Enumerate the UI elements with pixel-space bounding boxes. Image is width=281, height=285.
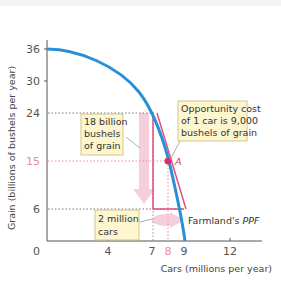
svg-text:of grain: of grain	[84, 140, 121, 151]
svg-text:18 billion: 18 billion	[84, 116, 128, 127]
x-tick-8: 8	[165, 245, 172, 258]
cropped-header	[0, 0, 281, 6]
svg-text:of 1 car is 9,000: of 1 car is 9,000	[181, 115, 258, 126]
note-opportunity-cost: Opportunity cost of 1 car is 9,000 bushe…	[178, 101, 261, 141]
ppf-chart: A 36 30 24 15 6 0 4 7 8 9 12 Grain (bill…	[0, 0, 281, 285]
y-tick-24: 24	[26, 107, 40, 120]
pink-down-arrow	[133, 113, 155, 204]
svg-text:Opportunity cost: Opportunity cost	[181, 103, 261, 114]
y-tick-15: 15	[26, 155, 40, 168]
note-grain: 18 billion bushels of grain	[81, 114, 128, 155]
y-axis-title: Grain (billions of bushels per year)	[6, 66, 17, 230]
y-tick-36: 36	[26, 43, 40, 56]
x-axis-title: Cars (millions per year)	[161, 263, 272, 274]
x-tick-9: 9	[181, 245, 188, 258]
note-cars: 2 million cars	[95, 210, 139, 240]
point-a-label: A	[174, 156, 182, 167]
note-grain-leader	[126, 137, 140, 148]
svg-text:2 million: 2 million	[98, 213, 139, 224]
origin-label: 0	[33, 245, 40, 258]
svg-text:cars: cars	[98, 226, 118, 237]
svg-text:bushels of grain: bushels of grain	[181, 127, 257, 138]
y-tick-6: 6	[33, 203, 40, 216]
x-tick-4: 4	[105, 245, 112, 258]
y-tick-30: 30	[26, 75, 40, 88]
note-cars-leader	[140, 219, 152, 222]
svg-text:bushels: bushels	[84, 128, 121, 139]
x-tick-12: 12	[223, 245, 237, 258]
x-tick-7: 7	[149, 245, 156, 258]
ppf-label: Farmland's PPF	[188, 215, 260, 226]
